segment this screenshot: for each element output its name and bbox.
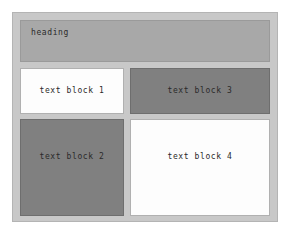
text-block-2: text block 2 <box>20 119 124 216</box>
text-block-3: text block 3 <box>130 68 270 114</box>
heading-block: heading <box>20 20 270 62</box>
text-block-3-label: text block 3 <box>168 86 233 96</box>
text-block-2-label: text block 2 <box>40 152 105 162</box>
text-block-1-label: text block 1 <box>40 86 105 96</box>
text-block-4: text block 4 <box>130 119 270 216</box>
heading-label: heading <box>31 28 269 38</box>
content-grid: text block 1 text block 3 text block 2 t… <box>20 68 270 216</box>
layout-container: heading text block 1 text block 3 text b… <box>12 12 278 222</box>
text-block-4-label: text block 4 <box>168 152 233 162</box>
text-block-1: text block 1 <box>20 68 124 114</box>
